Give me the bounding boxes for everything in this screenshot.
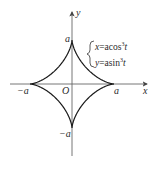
tick-label-top: a	[65, 33, 70, 44]
tick-label-bottom: −a	[59, 128, 71, 139]
tick-label-left: −a	[17, 85, 29, 96]
x-axis-label: x	[142, 85, 148, 96]
tick-label-right: a	[114, 85, 119, 96]
equation-y: y=asin3t	[94, 57, 126, 68]
astroid-diagram: y x O a a −a −a x=acos3t y=asin3t	[0, 0, 162, 172]
equation-brace	[87, 41, 94, 67]
origin-label: O	[62, 85, 69, 96]
equation-x: x=acos3t	[94, 41, 127, 52]
y-axis-label: y	[75, 7, 81, 18]
